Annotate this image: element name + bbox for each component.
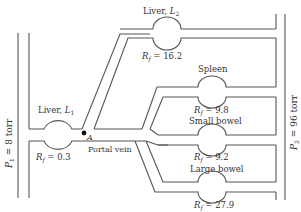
small-bowel-resistance: Rf = 9.2 [193, 152, 229, 164]
liver-l2-resistance: Rf = 16.2 [141, 51, 182, 63]
hepatic-circulation-diagram: A Portal vein P1 = 8 torr P2 = 96 torr L… [0, 0, 301, 212]
liver-l2-name: Liver, L2 [143, 6, 179, 17]
point-a-label: A [86, 133, 93, 142]
liver-l1-resistance: Rf = 0.3 [35, 152, 71, 164]
p1-reservoir [18, 33, 29, 198]
point-a-marker [82, 131, 87, 136]
p2-label: P2 = 96 torr [289, 94, 300, 151]
large-bowel-name: Large bowel [190, 164, 244, 174]
p1-label: P1 = 8 torr [4, 118, 15, 169]
small-bowel-channel [94, 124, 276, 135]
liver-l1-name: Liver, L1 [38, 105, 74, 116]
large-bowel-resistance: Rf = 27.9 [193, 200, 234, 212]
p2-reservoir [276, 14, 285, 200]
portal-vein-label: Portal vein [88, 145, 132, 154]
small-bowel-name: Small bowel [189, 116, 242, 126]
spleen-name: Spleen [198, 64, 228, 74]
